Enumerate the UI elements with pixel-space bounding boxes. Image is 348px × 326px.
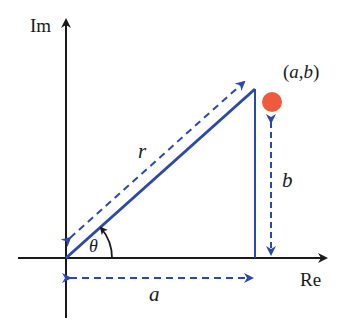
theta-arc [101, 228, 112, 258]
b-label: b [282, 168, 293, 192]
re-axis-label: Re [300, 269, 321, 290]
vector-line [66, 89, 255, 258]
r-label: r [138, 139, 147, 163]
theta-label: θ [89, 236, 98, 256]
r-dimension-arrow [70, 82, 244, 238]
point-ab [262, 92, 282, 112]
point-label: (a,b) [283, 61, 319, 83]
im-axis-label: Im [30, 15, 51, 36]
a-label: a [149, 282, 160, 306]
complex-plane-diagram: Im Re (a,b) r θ a b [0, 0, 348, 326]
